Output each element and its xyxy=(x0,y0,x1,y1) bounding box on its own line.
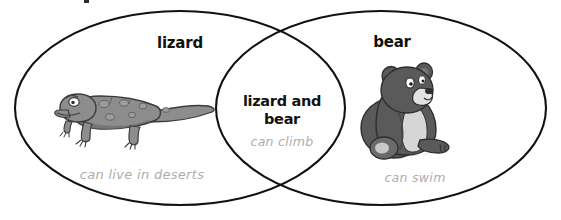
right-set-caption: can swim xyxy=(384,170,445,185)
intersection-title-line-1: lizard and xyxy=(243,93,321,109)
intersection-title-line-2: bear xyxy=(264,111,301,127)
right-set-title: bear xyxy=(373,33,411,51)
left-set-caption: can live in deserts xyxy=(80,167,204,182)
intersection-caption: can climb xyxy=(250,134,313,149)
lizard-illustration xyxy=(55,94,214,149)
bear-illustration xyxy=(361,63,449,159)
venn-diagram-page: lizard bear can live in deserts can swim… xyxy=(0,0,561,220)
left-set-title: lizard xyxy=(157,34,203,52)
venn-diagram-canvas: lizard bear can live in deserts can swim… xyxy=(0,0,561,220)
cropped-text-fragment xyxy=(84,0,89,3)
